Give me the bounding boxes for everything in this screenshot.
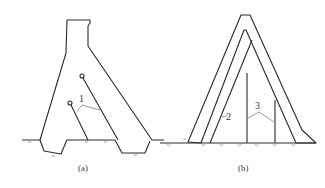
shell-b (188, 15, 316, 143)
inner-legs-a (115, 140, 150, 153)
callout-3: 3 (248, 100, 274, 122)
callout-label-3: 3 (255, 100, 260, 111)
callout-2: 2 (222, 111, 231, 122)
anchor-circle (80, 74, 84, 78)
left-foundation-a (40, 140, 115, 154)
caption-a: (a) (78, 163, 88, 173)
callout-label-2: 2 (226, 111, 231, 122)
anchor-circle (68, 101, 72, 105)
figure-canvas: 1 (a) 2 3 (0, 0, 325, 188)
tie-rods-a (68, 74, 118, 140)
panel-b: 2 3 (b) (160, 15, 316, 173)
inner-wall-line (210, 40, 252, 143)
tie-rod-short (71, 105, 88, 140)
tie-rod-long (83, 78, 118, 140)
callout-label-1: 1 (79, 93, 84, 104)
ground-marks-a (28, 141, 149, 157)
caption-b: (b) (238, 163, 249, 173)
panel-a: 1 (a) (22, 20, 164, 173)
structure-a-outline (22, 20, 164, 140)
